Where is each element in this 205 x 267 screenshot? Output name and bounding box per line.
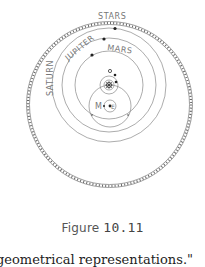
inner-planet [115,81,118,84]
stars-label: STARS [98,12,126,21]
orbit-node-left [91,114,92,115]
jupiter-planet [102,37,105,40]
orbit-node-right [127,114,128,115]
body-text: geometrical representations." [0,252,193,267]
figure-caption: Figure 10.11 [0,220,205,235]
caption-number: 10.11 [103,220,143,235]
mars-label: MARS [107,43,133,55]
mars-planet [90,53,93,56]
moon-label: M [95,102,103,111]
earth-label: E [111,103,115,110]
saturn-label: SATURN [46,60,55,96]
caption-prefix: Figure [62,221,100,235]
mercury-planet [114,74,117,77]
venus-planet [108,69,111,72]
saturn-planet [113,27,116,30]
moon-planet [103,105,105,107]
tychonic-system-diagram: STARS MARS JUPITER SATURN M E [0,0,205,200]
sun-icon [105,81,113,89]
jupiter-label: JUPITER [63,33,96,63]
